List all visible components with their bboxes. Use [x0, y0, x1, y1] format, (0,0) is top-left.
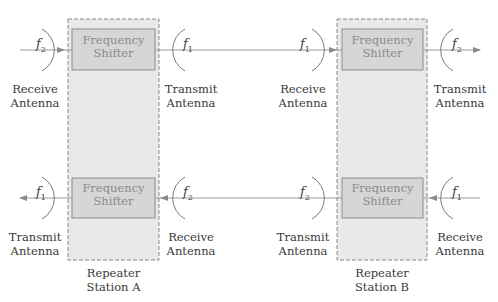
label-receive-antenna-a-bottom: Receive Antenna [158, 230, 224, 258]
antenna-label-line2: Antenna [158, 96, 224, 110]
antenna-label-line1: Transmit [158, 82, 224, 96]
station-label-line1: Repeater [337, 266, 427, 280]
station-a-label: Repeater Station A [68, 266, 159, 294]
station-label-line1: Repeater [68, 266, 159, 280]
antenna-label-line1: Transmit [427, 82, 493, 96]
shifter-a-top-label: Frequency Shifter [72, 34, 155, 60]
shifter-b-bottom-label: Frequency Shifter [342, 182, 423, 208]
freq-label-top-out: f2 [452, 36, 462, 54]
freq-label-bottom-in: f1 [452, 184, 462, 202]
antenna-label-line2: Antenna [270, 96, 336, 110]
shifter-label-line2: Shifter [342, 195, 423, 208]
freq-label-bottom-b-out: f2 [300, 184, 310, 202]
freq-label-bottom-out: f1 [36, 184, 46, 202]
freq-label-bottom-a-in: f2 [183, 184, 193, 202]
antenna-label-line2: Antenna [158, 244, 224, 258]
station-label-line2: Station A [68, 280, 159, 294]
antenna-label-line1: Receive [158, 230, 224, 244]
antenna-label-line2: Antenna [427, 244, 493, 258]
label-transmit-antenna-a-top: Transmit Antenna [158, 82, 224, 110]
antenna-label-line2: Antenna [2, 244, 68, 258]
shifter-b-top-label: Frequency Shifter [342, 34, 423, 60]
antenna-label-line2: Antenna [427, 96, 493, 110]
antenna-label-line2: Antenna [2, 96, 68, 110]
shifter-label-line2: Shifter [342, 47, 423, 60]
freq-label-top-b-in: f1 [300, 36, 310, 54]
antenna-label-line1: Receive [270, 82, 336, 96]
freq-label-top-a-out: f1 [183, 36, 193, 54]
label-transmit-antenna-b-top: Transmit Antenna [427, 82, 493, 110]
label-transmit-antenna-b-bottom: Transmit Antenna [270, 230, 336, 258]
label-transmit-antenna-a-bottom: Transmit Antenna [2, 230, 68, 258]
antenna-label-line1: Receive [427, 230, 493, 244]
station-label-line2: Station B [337, 280, 427, 294]
shifter-label-line2: Shifter [72, 195, 155, 208]
shifter-a-bottom-label: Frequency Shifter [72, 182, 155, 208]
label-receive-antenna-b-top: Receive Antenna [270, 82, 336, 110]
label-receive-antenna-b-bottom: Receive Antenna [427, 230, 493, 258]
freq-label-top-in: f2 [36, 36, 46, 54]
label-receive-antenna-a-top: Receive Antenna [2, 82, 68, 110]
antenna-label-line1: Transmit [2, 230, 68, 244]
shifter-label-line2: Shifter [72, 47, 155, 60]
antenna-label-line2: Antenna [270, 244, 336, 258]
antenna-label-line1: Receive [2, 82, 68, 96]
antenna-label-line1: Transmit [270, 230, 336, 244]
station-b-label: Repeater Station B [337, 266, 427, 294]
